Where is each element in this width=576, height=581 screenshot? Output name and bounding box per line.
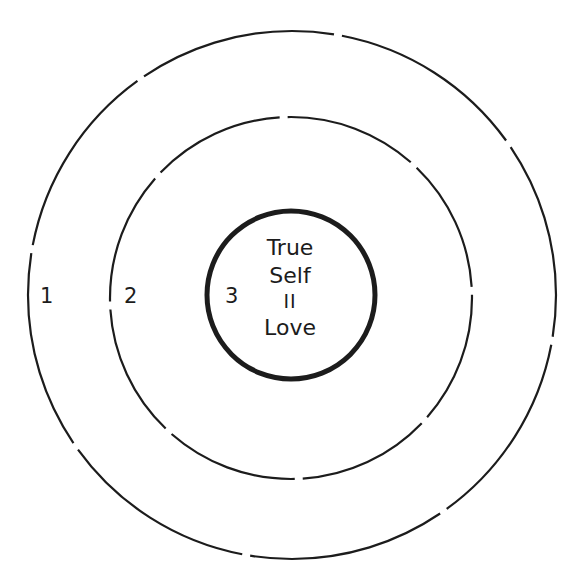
ring-label-1: 1 [40, 286, 53, 307]
center-text-self: Self [250, 265, 330, 287]
center-text-true: True [250, 237, 330, 259]
ring-label-2: 2 [124, 286, 137, 307]
center-text-equals: II [250, 292, 330, 311]
ring-label-3: 3 [225, 286, 238, 307]
center-text-love: Love [250, 317, 330, 339]
